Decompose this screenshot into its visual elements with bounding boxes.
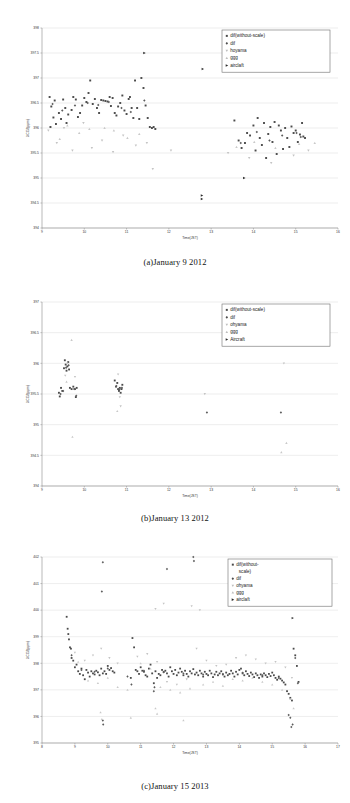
point-triangle-down — [47, 130, 49, 132]
point-diamond — [280, 411, 282, 414]
point-square — [189, 670, 191, 672]
point-square — [219, 672, 221, 674]
y-tick-label: 396 — [33, 126, 39, 130]
point-square — [119, 102, 121, 104]
point-triangle-up — [59, 138, 61, 140]
point-triangle-up — [271, 683, 273, 685]
figure-panel-b: 394394.5395395.5396396.53979101112131415… — [0, 280, 350, 535]
x-tick-label: 15 — [294, 230, 298, 234]
point-square — [117, 106, 119, 108]
point-square — [128, 98, 130, 100]
point-triangle-up — [292, 707, 294, 709]
point-square — [84, 678, 86, 680]
point-square — [191, 672, 193, 674]
y-tick-label: 396 — [33, 715, 39, 719]
point-triangle-down — [156, 661, 158, 663]
point-square — [115, 115, 117, 117]
point-square — [58, 392, 60, 394]
point-triangle-up — [126, 137, 128, 139]
y-tick-label: 395 — [33, 176, 39, 180]
point-triangle-down — [270, 162, 272, 164]
point-square — [72, 96, 74, 98]
point-square — [60, 118, 62, 120]
point-square — [278, 125, 280, 127]
point-diamond — [153, 690, 155, 692]
legend-item[interactable]: dif(without-scale) — [226, 307, 266, 312]
scatter-chart-c[interactable]: 3953963973983994004014028910111213141516… — [0, 535, 350, 780]
point-square — [196, 672, 198, 674]
point-triangle-up — [212, 681, 214, 683]
point-square — [63, 367, 65, 369]
point-square — [181, 671, 183, 673]
point-square — [96, 107, 98, 109]
figure-caption-c: (c)January 15 2013 — [0, 781, 350, 791]
point-square — [98, 112, 100, 114]
point-triangle-up — [202, 683, 204, 685]
point-square — [150, 664, 152, 666]
point-triangle-up — [71, 436, 73, 438]
point-square — [71, 657, 73, 659]
point-triangle-up — [261, 681, 263, 683]
legend-item[interactable]: dif(without-scale) — [226, 33, 266, 38]
point-square — [178, 672, 180, 674]
point-triangle-down — [135, 145, 137, 147]
point-triangle-up — [189, 687, 191, 689]
point-square — [184, 670, 186, 672]
point-square — [155, 670, 157, 672]
point-triangle-down — [307, 150, 309, 152]
figure-page: 394394.5395395.5396396.5397397.539891011… — [0, 0, 350, 803]
point-triangle-up — [314, 142, 316, 144]
point-square — [209, 670, 211, 672]
series-dif-without-scale- — [49, 77, 306, 159]
point-triangle-right — [202, 68, 204, 71]
point-square — [126, 113, 128, 115]
point-square — [145, 105, 147, 107]
legend-label: dif(without- — [236, 562, 259, 567]
point-triangle-up — [253, 141, 255, 143]
point-square — [156, 677, 158, 679]
point-triangle-down — [190, 605, 192, 607]
point-square — [257, 117, 259, 119]
point-triangle-up — [232, 678, 234, 680]
plot-area-a: 394394.5395395.5396396.5397397.539891011… — [0, 0, 350, 255]
point-square — [275, 677, 277, 679]
point-square — [102, 672, 104, 674]
y-tick-label: 396.5 — [31, 331, 40, 335]
y-tick-label: 400 — [33, 608, 39, 612]
point-square — [49, 96, 51, 98]
point-square — [132, 117, 134, 119]
point-triangle-down — [170, 150, 172, 152]
point-diamond — [130, 683, 132, 685]
y-tick-label: 402 — [33, 555, 39, 559]
point-triangle-down — [248, 157, 250, 159]
point-triangle-up — [101, 718, 103, 720]
point-square — [145, 674, 147, 676]
point-square — [114, 112, 116, 114]
point-triangle-down — [108, 657, 110, 659]
point-square — [194, 674, 196, 676]
point-square — [75, 99, 77, 101]
point-triangle-up — [298, 143, 300, 145]
point-triangle-down — [56, 142, 58, 144]
point-square — [71, 109, 73, 111]
point-triangle-down — [291, 677, 293, 679]
y-tick-label: 398 — [33, 662, 39, 666]
point-diamond — [153, 686, 155, 688]
point-triangle-up — [222, 685, 224, 687]
scatter-chart-b[interactable]: 394394.5395395.5396396.53979101112131415… — [0, 280, 350, 512]
x-tick-label: 12 — [167, 230, 171, 234]
point-triangle-down — [92, 654, 94, 656]
scatter-chart-a[interactable]: 394394.5395395.5396396.5397397.539891011… — [0, 0, 350, 255]
legend-label: airclaft — [230, 63, 244, 68]
point-square — [59, 396, 61, 398]
x-tick-label: 16 — [303, 745, 307, 749]
point-triangle-down — [64, 375, 66, 377]
point-diamond — [102, 723, 104, 725]
point-square — [171, 670, 173, 672]
point-square — [274, 121, 276, 123]
y-tick-label: 399 — [33, 635, 39, 639]
figure-panel-c: 3953963973983994004014028910111213141516… — [0, 535, 350, 803]
point-square — [293, 132, 295, 134]
point-square — [210, 672, 212, 674]
point-square — [245, 670, 247, 672]
